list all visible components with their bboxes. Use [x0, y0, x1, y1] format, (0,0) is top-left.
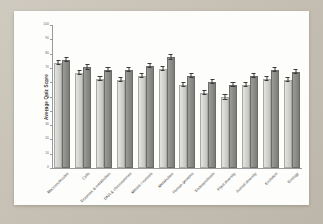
- x-tick-label: Animal diversity: [235, 171, 258, 194]
- x-axis-line: [52, 168, 302, 169]
- y-tick-label: 50: [45, 95, 49, 98]
- chart-card: Average Quiz Score 010203040506070809010…: [14, 11, 309, 205]
- y-tick-label: 10: [45, 152, 49, 155]
- y-tick-label: 40: [45, 109, 49, 112]
- bar[interactable]: [138, 76, 146, 168]
- x-tick-label: Mitosis / meiosis: [130, 171, 154, 195]
- x-tick-label: Endosymbiosis: [193, 171, 215, 193]
- x-tick-label: Metabolism: [157, 171, 175, 189]
- bar-group: [284, 25, 300, 168]
- bar[interactable]: [54, 63, 62, 168]
- bar-series-container: [52, 25, 302, 168]
- x-tick-label: Plant diversity: [216, 171, 237, 192]
- y-tick-label: 30: [45, 123, 49, 126]
- bar[interactable]: [242, 85, 250, 169]
- y-tick-label: 20: [45, 138, 49, 141]
- error-bar: [225, 94, 226, 99]
- bar[interactable]: [221, 97, 229, 168]
- bar-group: [221, 25, 237, 168]
- error-bar: [128, 67, 129, 72]
- y-tick-label: 80: [45, 52, 49, 55]
- bar-group: [117, 25, 133, 168]
- error-bar: [212, 79, 213, 84]
- bar[interactable]: [96, 79, 104, 168]
- error-bar: [245, 82, 246, 87]
- x-tick-label: Ecology: [286, 171, 299, 184]
- bar-group: [138, 25, 154, 168]
- error-bar: [66, 57, 67, 62]
- error-bar: [266, 76, 267, 81]
- error-bar: [162, 66, 163, 71]
- bar[interactable]: [187, 76, 195, 168]
- error-bar: [204, 90, 205, 95]
- x-tick-label: Human genetics: [171, 171, 194, 194]
- x-axis-category-labels: MacromoleculesCellsEnzymes & metabolismD…: [52, 171, 302, 217]
- bar[interactable]: [179, 85, 187, 169]
- error-bar: [287, 77, 288, 82]
- error-bar: [295, 69, 296, 74]
- y-tick-mark: [50, 168, 52, 169]
- bar[interactable]: [250, 76, 258, 168]
- error-bar: [58, 60, 59, 65]
- bar[interactable]: [159, 69, 167, 168]
- bar[interactable]: [125, 70, 133, 168]
- bar-group: [242, 25, 258, 168]
- bar-group: [179, 25, 195, 168]
- bar[interactable]: [208, 82, 216, 168]
- x-tick-label: Evolution: [264, 171, 279, 186]
- bar[interactable]: [284, 80, 292, 168]
- error-bar: [100, 76, 101, 81]
- error-bar: [87, 64, 88, 69]
- bar[interactable]: [263, 79, 271, 168]
- y-tick-label: 90: [45, 38, 49, 41]
- bar[interactable]: [292, 72, 300, 168]
- x-tick-label: Macromolecules: [46, 171, 70, 195]
- y-tick-label: 70: [45, 66, 49, 69]
- bar[interactable]: [167, 57, 175, 168]
- y-tick-label: 100: [43, 23, 49, 26]
- bar[interactable]: [83, 67, 91, 168]
- bar[interactable]: [200, 93, 208, 168]
- error-bar: [149, 63, 150, 68]
- bar-group: [96, 25, 112, 168]
- figure-frame: Average Quiz Score 010203040506070809010…: [0, 0, 323, 224]
- x-tick-label: Cells: [81, 171, 91, 181]
- error-bar: [79, 70, 80, 75]
- bar-group: [75, 25, 91, 168]
- bar[interactable]: [117, 80, 125, 168]
- plot-area: Average Quiz Score 010203040506070809010…: [52, 25, 302, 169]
- error-bar: [183, 82, 184, 87]
- bar[interactable]: [271, 70, 279, 168]
- error-bar: [170, 54, 171, 59]
- y-tick-label: 0: [47, 166, 49, 169]
- error-bar: [141, 73, 142, 78]
- bar-group: [159, 25, 175, 168]
- bar-group: [263, 25, 279, 168]
- error-bar: [233, 82, 234, 87]
- bar[interactable]: [75, 73, 83, 168]
- error-bar: [108, 67, 109, 72]
- bar[interactable]: [104, 70, 112, 168]
- bar[interactable]: [62, 60, 70, 168]
- y-tick-label: 60: [45, 80, 49, 83]
- error-bar: [191, 73, 192, 78]
- bar-group: [200, 25, 216, 168]
- error-bar: [253, 73, 254, 78]
- error-bar: [120, 77, 121, 82]
- bar[interactable]: [146, 66, 154, 168]
- bar-group: [54, 25, 70, 168]
- error-bar: [274, 67, 275, 72]
- bar[interactable]: [229, 85, 237, 169]
